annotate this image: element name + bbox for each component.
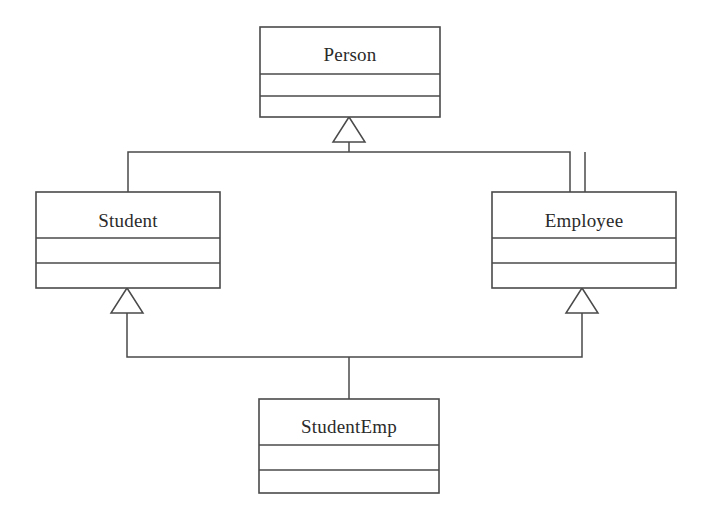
connector-path-studentemp-to-student-and-employee: [127, 313, 582, 357]
class-box-studentemp[interactable]: StudentEmp: [259, 399, 439, 493]
class-name-studentemp: StudentEmp: [301, 416, 397, 437]
generalization-student-employee-to-person: [128, 117, 585, 192]
generalization-arrow-to-employee: [566, 288, 598, 313]
class-name-person: Person: [324, 44, 377, 65]
class-box-person-outline: [260, 27, 440, 117]
connector-path-student-to-person: [128, 152, 570, 192]
class-box-studentemp-outline: [259, 399, 439, 493]
diagram-canvas: Person Student Employee StudentEmp: [0, 0, 713, 523]
generalization-studentemp-to-parents: [111, 288, 598, 399]
class-box-person[interactable]: Person: [260, 27, 440, 117]
class-box-employee-outline: [492, 192, 676, 288]
uml-class-diagram: Person Student Employee StudentEmp: [0, 0, 713, 523]
generalization-arrow-to-student: [111, 288, 143, 313]
class-name-employee: Employee: [545, 210, 624, 231]
class-box-employee[interactable]: Employee: [492, 192, 676, 288]
class-box-student-outline: [36, 192, 220, 288]
generalization-arrow-to-person: [333, 117, 365, 142]
class-name-student: Student: [98, 210, 158, 231]
class-box-student[interactable]: Student: [36, 192, 220, 288]
